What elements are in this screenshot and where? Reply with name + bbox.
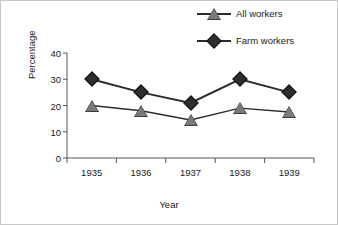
y-tick-label: 20 [41,100,61,111]
triangle-icon [283,107,295,117]
x-tick-label: 1937 [171,167,211,178]
x-tick-label: 1936 [121,167,161,178]
x-tick-label: 1939 [269,167,309,178]
y-tick-label: 40 [41,48,61,59]
chart-frame: All workers Farm workers 010203040 19351… [0,0,338,225]
y-axis-title: Percentage [26,30,37,79]
x-tick-label: 1935 [72,167,112,178]
triangle-icon [135,106,147,116]
triangle-icon [86,101,98,111]
x-axis-title: Year [1,199,337,210]
x-tick-label: 1938 [220,167,260,178]
y-tick-label: 30 [41,74,61,85]
y-tick-label: 10 [41,126,61,137]
y-tick-label: 0 [41,153,61,164]
triangle-icon [234,103,246,113]
triangle-icon [185,115,197,125]
